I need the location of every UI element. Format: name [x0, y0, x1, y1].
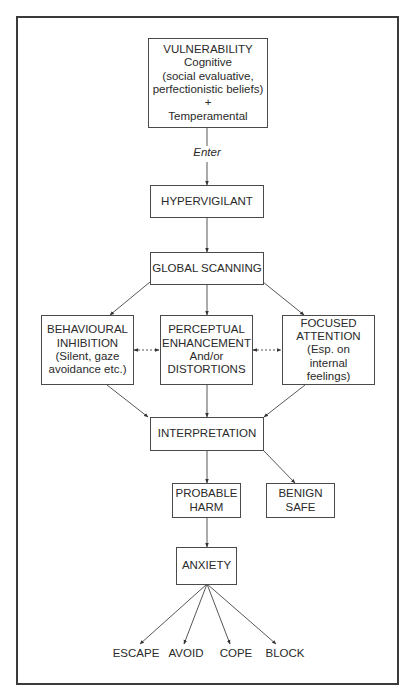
node-text-line: HYPERVIGILANT — [161, 195, 253, 208]
node-text-line: BEHAVIOURAL — [47, 323, 128, 336]
node-perceptual-enhancement: PERCEPTUAL ENHANCEMENT And/or DISTORTION… — [160, 315, 253, 385]
node-text-line: + — [205, 96, 212, 109]
outcome-block: BLOCK — [260, 647, 310, 659]
node-text-line: Cognitive — [184, 56, 232, 69]
node-text-line: (Silent, gaze — [56, 350, 120, 363]
node-text-line: ATTENTION — [296, 330, 360, 343]
node-behavioural-inhibition: BEHAVIOURAL INHIBITION (Silent, gaze avo… — [41, 315, 134, 385]
node-benign-safe: BENIGN SAFE — [266, 483, 335, 518]
node-text-line: PROBABLE — [176, 487, 238, 500]
node-hypervigilant: HYPERVIGILANT — [150, 185, 264, 218]
node-text-line: BENIGN — [278, 487, 322, 500]
outcome-cope: COPE — [216, 647, 256, 659]
outcome-escape: ESCAPE — [108, 647, 164, 659]
node-text-line: Temperamental — [168, 110, 247, 123]
node-text-line: (social evaluative, — [162, 70, 253, 83]
edge-label-enter: Enter — [187, 146, 227, 158]
node-text-line: FOCUSED — [300, 317, 356, 330]
node-anxiety: ANXIETY — [176, 547, 237, 585]
node-text-line: feelings) — [307, 370, 350, 383]
node-text-line: And/or — [190, 350, 224, 363]
node-global-scanning: GLOBAL SCANNING — [150, 252, 264, 285]
node-focused-attention: FOCUSED ATTENTION (Esp. on internal feel… — [282, 315, 375, 385]
outcome-avoid: AVOID — [164, 647, 208, 659]
node-text-line: SAFE — [285, 501, 315, 514]
node-text-line: ENHANCEMENT — [162, 337, 251, 350]
node-text-line: HARM — [190, 501, 224, 514]
node-text-line: avoidance etc.) — [49, 363, 127, 376]
node-text-line: ANXIETY — [182, 559, 231, 572]
node-vulnerability-title: VULNERABILITY — [163, 43, 252, 56]
node-text-line: PERCEPTUAL — [168, 323, 245, 336]
node-text-line: GLOBAL SCANNING — [152, 262, 262, 275]
node-text-line: INTERPRETATION — [158, 427, 257, 440]
node-interpretation: INTERPRETATION — [150, 417, 264, 451]
node-text-line: perfectionistic beliefs) — [153, 83, 264, 96]
node-text-line: internal — [310, 357, 348, 370]
node-text-line: DISTORTIONS — [167, 363, 245, 376]
node-vulnerability: VULNERABILITY Cognitive (social evaluati… — [148, 38, 268, 128]
node-text-line: INHIBITION — [57, 337, 118, 350]
node-probable-harm: PROBABLE HARM — [172, 483, 241, 518]
node-text-line: (Esp. on — [307, 343, 350, 356]
